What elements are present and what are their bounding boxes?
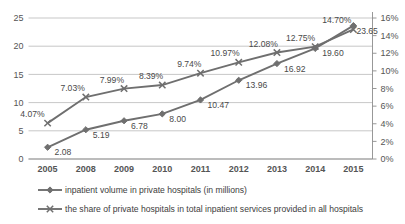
chart-container: 2520151050 16%14%12%10%8%6%4%2%0% 200520…	[0, 0, 405, 224]
legend-label: inpatient volume in private hospitals (i…	[65, 185, 247, 195]
x-axis-category-label: 2012	[229, 164, 249, 174]
x-axis-category-label: 2008	[76, 164, 96, 174]
x-axis-category-label: 2015	[343, 164, 363, 174]
left-axis-tick-label: 0	[18, 154, 23, 164]
data-point-label: 7.03%	[60, 83, 85, 93]
data-point-label: 13.96	[246, 80, 268, 90]
right-axis-tick-label: 8%	[381, 84, 394, 94]
data-point-label: 5.19	[93, 130, 110, 140]
left-axis-tick-label: 5	[18, 126, 23, 136]
right-axis-tick-label: 10%	[381, 66, 399, 76]
legend-label: the share of private hospitals in total …	[65, 204, 363, 214]
data-point-label: 9.74%	[177, 59, 202, 69]
x-axis-category-labels: 200520082009201020112012201320142015	[38, 164, 364, 174]
x-axis-category-label: 2014	[305, 164, 325, 174]
data-point-label: 10.47	[208, 100, 230, 110]
x-axis-category-label: 2013	[267, 164, 287, 174]
data-point-label: 16.92	[284, 64, 306, 74]
data-point-label: 10.97%	[211, 48, 241, 58]
data-point-label: 12.75%	[286, 33, 316, 43]
left-axis-tick-label: 15	[13, 70, 23, 80]
data-point-label: 14.70%	[322, 15, 352, 25]
legend-item[interactable]: the share of private hospitals in total …	[38, 204, 363, 214]
x-axis-category-label: 2010	[152, 164, 172, 174]
right-axis-tick-label: 12%	[381, 48, 399, 58]
right-axis-tick-label: 6%	[381, 101, 394, 111]
right-axis-tick-label: 0%	[381, 154, 394, 164]
data-point-label: 2.08	[55, 147, 72, 157]
x-axis-category-label: 2005	[38, 164, 58, 174]
right-axis-tick-label: 2%	[381, 137, 394, 147]
data-point-label: 8.00	[169, 114, 186, 124]
legend-item[interactable]: inpatient volume in private hospitals (i…	[38, 185, 247, 195]
line-chart: 2520151050 16%14%12%10%8%6%4%2%0% 200520…	[0, 0, 405, 224]
left-axis-tick-label: 25	[13, 13, 23, 23]
right-axis-tick-label: 16%	[381, 13, 399, 23]
x-axis-category-label: 2009	[114, 164, 134, 174]
right-axis-tick-label: 4%	[381, 119, 394, 129]
data-point-label: 7.99%	[100, 75, 125, 85]
data-point-label: 4.07%	[20, 109, 45, 119]
left-axis-tick-label: 20	[13, 41, 23, 51]
right-axis-tick-label: 14%	[381, 31, 399, 41]
data-point-label: 6.78	[131, 121, 148, 131]
data-point-label: 19.60	[322, 48, 344, 58]
data-point-label: 8.39%	[139, 71, 164, 81]
data-point-label: 12.08%	[249, 39, 279, 49]
data-point-label: 23.65	[356, 26, 378, 36]
x-axis-category-label: 2011	[191, 164, 211, 174]
left-axis-tick-label: 10	[13, 98, 23, 108]
